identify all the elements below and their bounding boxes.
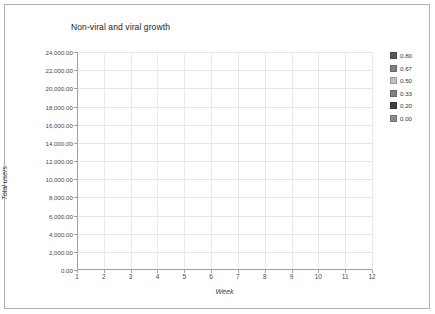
gridline bbox=[77, 179, 372, 180]
chart-frame: Non-viral and viral growth 0.002,000.004… bbox=[4, 4, 430, 309]
gridline bbox=[77, 197, 372, 198]
gridline-vertical bbox=[318, 52, 319, 270]
y-tick-label: 16,000.00 bbox=[45, 121, 73, 128]
x-tick-label: 1 bbox=[75, 273, 79, 280]
y-tick-label: 6,000.00 bbox=[49, 212, 73, 219]
y-tick-label: 0.00 bbox=[61, 267, 73, 274]
x-tick-label: 7 bbox=[236, 273, 240, 280]
gridline bbox=[77, 216, 372, 217]
legend-color-swatch bbox=[390, 77, 397, 84]
legend-item[interactable]: 0.00 bbox=[390, 113, 435, 124]
y-tick-label: 24,000.00 bbox=[45, 49, 73, 56]
chart-legend: 0.800.670.500.330.200.00 bbox=[390, 50, 435, 125]
legend-item-label: 0.20 bbox=[400, 102, 412, 109]
gridline-vertical bbox=[211, 52, 212, 270]
y-tick-label: 10,000.00 bbox=[45, 176, 73, 183]
gridline-vertical bbox=[345, 52, 346, 270]
x-tick-label: 6 bbox=[209, 273, 213, 280]
x-axis-tick-labels: 123456789101112 bbox=[77, 273, 372, 285]
y-tick-label: 18,000.00 bbox=[45, 103, 73, 110]
x-tick-label: 9 bbox=[290, 273, 294, 280]
y-axis-line bbox=[77, 52, 78, 270]
x-tick-label: 11 bbox=[342, 273, 349, 280]
y-tick-label: 12,000.00 bbox=[45, 158, 73, 165]
gridline bbox=[77, 52, 372, 53]
gridline bbox=[77, 252, 372, 253]
legend-item[interactable]: 0.33 bbox=[390, 88, 435, 99]
y-tick-label: 20,000.00 bbox=[45, 85, 73, 92]
plot-area bbox=[77, 52, 372, 270]
x-tick-label: 8 bbox=[263, 273, 267, 280]
x-axis-title: Week bbox=[77, 288, 372, 295]
gridline-vertical bbox=[372, 52, 373, 270]
gridline-vertical bbox=[184, 52, 185, 270]
x-tick-label: 4 bbox=[156, 273, 160, 280]
gridline bbox=[77, 70, 372, 71]
gridline-vertical bbox=[238, 52, 239, 270]
legend-item[interactable]: 0.50 bbox=[390, 75, 435, 86]
gridline-vertical bbox=[131, 52, 132, 270]
legend-item[interactable]: 0.20 bbox=[390, 100, 435, 111]
gridline-vertical bbox=[265, 52, 266, 270]
chart-title: Non-viral and viral growth bbox=[71, 22, 170, 32]
legend-color-swatch bbox=[390, 52, 397, 59]
gridline-vertical bbox=[104, 52, 105, 270]
gridline bbox=[77, 143, 372, 144]
legend-item-label: 0.33 bbox=[400, 90, 412, 97]
x-tick-label: 2 bbox=[102, 273, 106, 280]
legend-color-swatch bbox=[390, 102, 397, 109]
y-tick-label: 8,000.00 bbox=[49, 194, 73, 201]
legend-item-label: 0.00 bbox=[400, 115, 412, 122]
y-axis-title: Total users bbox=[1, 166, 8, 200]
legend-item-label: 0.50 bbox=[400, 77, 412, 84]
x-tick-label: 5 bbox=[182, 273, 186, 280]
y-tick-label: 4,000.00 bbox=[49, 230, 73, 237]
x-tick-label: 3 bbox=[129, 273, 133, 280]
legend-item-label: 0.80 bbox=[400, 52, 412, 59]
gridline bbox=[77, 234, 372, 235]
gridline bbox=[77, 161, 372, 162]
y-tick-label: 14,000.00 bbox=[45, 139, 73, 146]
gridline bbox=[77, 88, 372, 89]
x-tick-label: 12 bbox=[368, 273, 375, 280]
gridline bbox=[77, 107, 372, 108]
legend-color-swatch bbox=[390, 115, 397, 122]
y-axis-title-container: Total users bbox=[33, 90, 45, 230]
legend-item[interactable]: 0.67 bbox=[390, 63, 435, 74]
gridline-vertical bbox=[157, 52, 158, 270]
legend-item[interactable]: 0.80 bbox=[390, 50, 435, 61]
legend-item-label: 0.67 bbox=[400, 65, 412, 72]
legend-color-swatch bbox=[390, 90, 397, 97]
x-tick-label: 10 bbox=[315, 273, 322, 280]
y-tick-label: 22,000.00 bbox=[45, 67, 73, 74]
y-tick-label: 2,000.00 bbox=[49, 248, 73, 255]
gridline bbox=[77, 125, 372, 126]
gridline-vertical bbox=[292, 52, 293, 270]
legend-color-swatch bbox=[390, 65, 397, 72]
